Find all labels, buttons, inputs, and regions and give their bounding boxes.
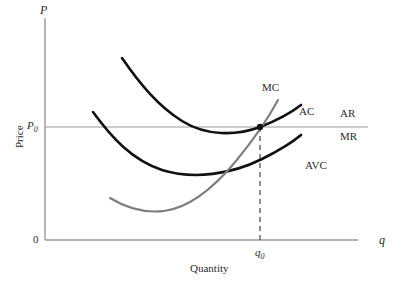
equilibrium-point xyxy=(257,124,263,130)
y-axis-title: Price xyxy=(14,125,25,148)
y-tick-p0: P0 xyxy=(27,120,38,134)
x-axis-symbol: q xyxy=(379,234,385,246)
y-tick-p0-base: P xyxy=(27,119,34,131)
economics-cost-curve-figure: P q 0 P0 q0 Price Quantity MC AC AVC AR … xyxy=(0,0,396,284)
y-tick-p0-sub: 0 xyxy=(34,125,38,134)
avc-curve xyxy=(93,112,301,175)
mr-label: MR xyxy=(340,131,357,142)
x-axis-title: Quantity xyxy=(190,263,229,274)
avc-label: AVC xyxy=(305,160,327,171)
ac-curve xyxy=(122,58,301,133)
mc-label: MC xyxy=(262,82,279,93)
origin-label: 0 xyxy=(33,234,39,245)
x-tick-q0-sub: 0 xyxy=(261,252,265,261)
y-axis-symbol: P xyxy=(40,4,47,16)
ar-label: AR xyxy=(340,108,355,119)
chart-canvas xyxy=(0,0,396,284)
ac-label: AC xyxy=(299,106,314,117)
x-tick-q0: q0 xyxy=(255,247,265,261)
